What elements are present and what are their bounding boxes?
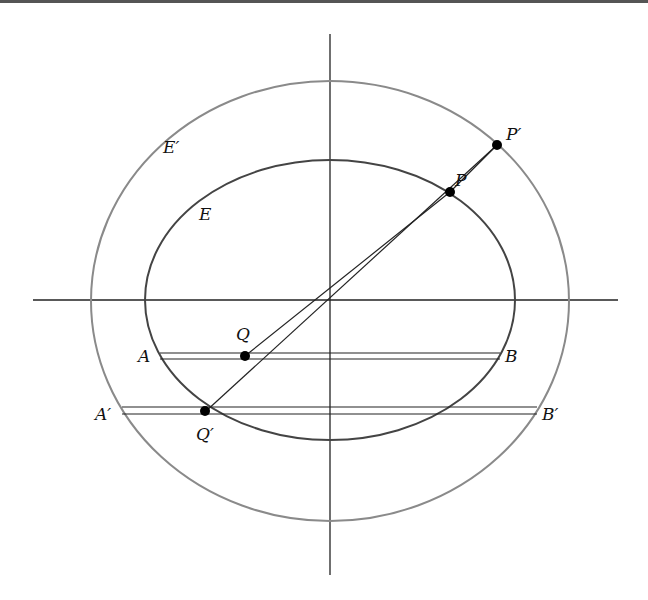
label-e: E xyxy=(198,204,212,224)
label-q: Q xyxy=(236,324,250,344)
point-q-prime xyxy=(200,406,210,416)
label-b-prime: B′ xyxy=(541,404,558,424)
point-p xyxy=(445,187,455,197)
label-e-prime: E′ xyxy=(162,137,179,157)
point-p-prime xyxy=(492,140,502,150)
label-a-prime: A′ xyxy=(93,404,111,424)
ellipse-diagram: E′ E P′ P Q Q′ A B A′ B′ xyxy=(0,0,648,600)
point-q xyxy=(240,351,250,361)
label-p-prime: P′ xyxy=(505,124,521,144)
label-p: P xyxy=(454,170,467,190)
line-p-q xyxy=(245,192,450,356)
label-b: B xyxy=(504,346,518,366)
label-a: A xyxy=(136,346,150,366)
label-q-prime: Q′ xyxy=(196,424,214,444)
line-p-prime-q-prime xyxy=(205,145,497,412)
